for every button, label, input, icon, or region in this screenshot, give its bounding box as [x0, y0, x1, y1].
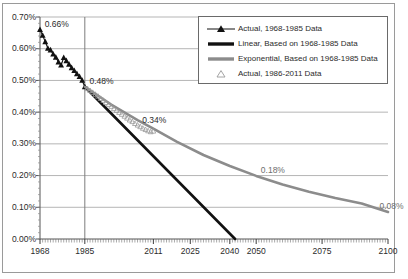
- x-axis-tick-label: 2100: [368, 247, 408, 256]
- filled-triangle-line-icon: [204, 23, 238, 35]
- legend-label: Actual, 1968-1985 Data: [238, 25, 322, 33]
- data-marker-filled-triangle: [42, 39, 48, 45]
- data-marker-filled-triangle: [37, 26, 43, 32]
- hollow-triangle-icon: [204, 68, 238, 80]
- data-annotation-label: 0.66%: [45, 20, 69, 29]
- x-axis-tick-label: 1968: [20, 247, 60, 256]
- x-axis-tick-label: 2011: [133, 247, 173, 256]
- x-axis-tick-label: 2075: [302, 247, 342, 256]
- data-annotation-label: 0.18%: [261, 166, 285, 175]
- y-axis-tick-label: 0.10%: [0, 203, 36, 212]
- x-axis-tick-label: 2050: [236, 247, 276, 256]
- legend-item-actual-1968-1985: Actual, 1968-1985 Data: [199, 21, 387, 36]
- data-annotation-label: 0.34%: [142, 116, 166, 125]
- x-axis-tick-label: 2025: [170, 247, 210, 256]
- legend-label: Linear, Based on 1968-1985 Data: [238, 40, 358, 48]
- series-line: [85, 87, 235, 239]
- series-line: [85, 87, 388, 212]
- y-axis-tick-label: 0.00%: [0, 235, 36, 244]
- legend-item-linear-trend: Linear, Based on 1968-1985 Data: [199, 36, 387, 51]
- legend-label: Exponential, Based on 1968-1985 Data: [238, 55, 378, 63]
- y-axis-tick-label: 0.30%: [0, 139, 36, 148]
- chart-legend: Actual, 1968-1985 Data Linear, Based on …: [198, 16, 388, 84]
- legend-item-actual-1986-2011: Actual, 1986-2011 Data: [199, 66, 387, 81]
- legend-label: Actual, 1986-2011 Data: [238, 70, 321, 78]
- y-axis-tick-label: 0.50%: [0, 76, 36, 85]
- data-marker-filled-triangle: [40, 32, 46, 38]
- y-axis-tick-label: 0.70%: [0, 13, 36, 22]
- data-annotation-label: 0.48%: [89, 77, 113, 86]
- y-axis-tick-label: 0.40%: [0, 108, 36, 117]
- legend-item-exponential-trend: Exponential, Based on 1968-1985 Data: [199, 51, 387, 66]
- x-axis-tick-label: 1985: [65, 247, 105, 256]
- thick-black-line-icon: [204, 38, 238, 50]
- y-axis-tick-label: 0.20%: [0, 171, 36, 180]
- y-axis-tick-label: 0.60%: [0, 44, 36, 53]
- thick-gray-line-icon: [204, 53, 238, 65]
- data-annotation-label: 0.08%: [379, 202, 403, 211]
